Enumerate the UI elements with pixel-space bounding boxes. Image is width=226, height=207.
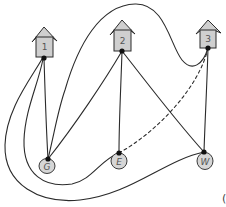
utility-G: G bbox=[39, 156, 55, 173]
utility-E-label: E bbox=[116, 157, 122, 167]
house-1: 1 bbox=[32, 27, 57, 61]
utility-E: E bbox=[111, 150, 127, 169]
edges bbox=[5, 4, 208, 201]
house-3-label: 3 bbox=[205, 34, 211, 44]
edge-2-E bbox=[119, 51, 122, 153]
house-3: 3 bbox=[196, 20, 221, 51]
utility-G-label: G bbox=[44, 162, 51, 172]
edge-2-G bbox=[48, 51, 122, 159]
house-2-label: 2 bbox=[120, 36, 126, 46]
utility-W: W bbox=[197, 149, 213, 169]
edge-1-G bbox=[44, 58, 48, 159]
edge-1-E bbox=[24, 59, 119, 185]
edge-3-W bbox=[204, 48, 208, 152]
utilities-diagram: 1 2 3 G E W ( bbox=[0, 0, 226, 207]
house-1-label: 1 bbox=[42, 42, 48, 52]
corner-glyph: ( bbox=[222, 192, 226, 205]
house-2: 2 bbox=[110, 20, 135, 54]
utility-W-label: W bbox=[201, 157, 211, 167]
